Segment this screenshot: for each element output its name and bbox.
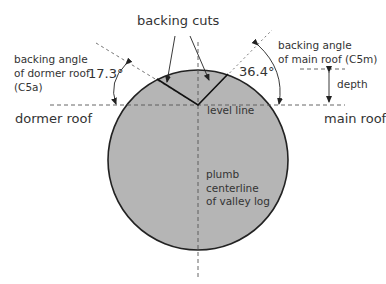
dormer-angle-title-line3: (C5a) xyxy=(14,80,90,94)
main-roof-label: main roof xyxy=(324,111,386,127)
depth-label: depth xyxy=(337,78,368,91)
dormer-angle-value: 17.3° xyxy=(88,66,123,82)
dormer-angle-title-line1: backing angle xyxy=(14,52,90,66)
centerline-label-line3: of valley log xyxy=(206,195,270,209)
dormer-angle-title-line2: of dormer roof xyxy=(14,66,90,80)
main-angle-title-line1: backing angle xyxy=(278,38,377,52)
backing-cuts-label: backing cuts xyxy=(137,13,219,29)
dormer-angle-title: backing angle of dormer roof (C5a) xyxy=(14,52,90,94)
dormer-roof-label: dormer roof xyxy=(15,111,92,127)
main-angle-title-line2: of main roof (C5m) xyxy=(278,52,377,66)
centerline-label: plumb centerline of valley log xyxy=(206,168,270,209)
main-angle-title: backing angle of main roof (C5m) xyxy=(278,38,377,66)
centerline-label-line2: centerline xyxy=(206,182,270,196)
centerline-label-line1: plumb xyxy=(206,168,270,182)
main-angle-value: 36.4° xyxy=(239,64,274,80)
log-cross-section xyxy=(108,70,288,250)
level-line-label: level line xyxy=(207,104,254,117)
